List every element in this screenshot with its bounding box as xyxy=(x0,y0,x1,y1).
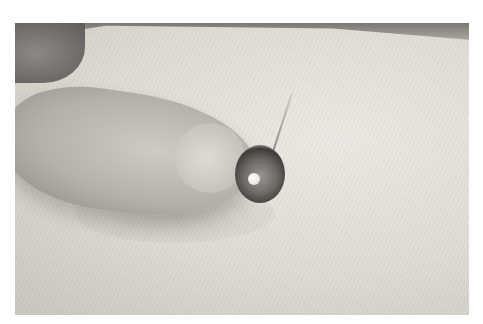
snap-fastener xyxy=(235,145,285,203)
photo xyxy=(15,23,469,315)
hand-shadow xyxy=(15,23,85,83)
snap-stud xyxy=(248,173,260,185)
fingernail xyxy=(175,123,245,193)
